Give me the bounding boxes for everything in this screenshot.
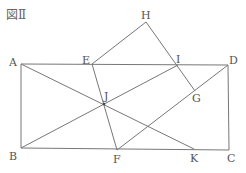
point-label-j: J [104,91,108,102]
point-label-i: I [176,54,180,65]
segment-FD [117,65,228,150]
segment-HG [146,22,195,91]
geometry-diagram [0,0,246,173]
point-label-f: F [113,154,121,165]
segment-BC [21,148,229,150]
segment-CD [228,65,229,150]
point-label-e: E [82,55,90,66]
point-label-a: A [9,57,17,68]
point-label-d: D [229,55,238,66]
segment-AK [21,64,194,149]
segment-EF [92,64,117,150]
point-label-h: H [141,10,151,21]
segment-BI [21,65,178,148]
point-label-b: B [9,151,17,162]
segment-AD [21,64,228,65]
point-label-c: C [227,153,235,164]
point-label-k: K [190,153,198,164]
segment-EH [92,22,146,64]
point-label-g: G [192,93,201,104]
point-j-dot [103,103,106,106]
